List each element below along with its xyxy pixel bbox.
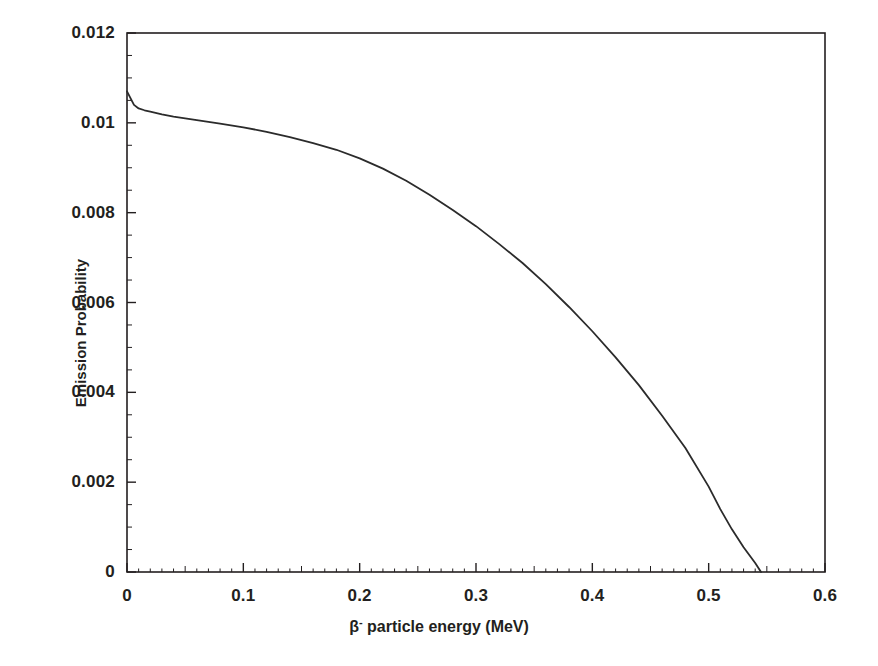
- y-tick-label: 0.002: [71, 472, 115, 492]
- x-axis-title-symbol: β: [349, 618, 359, 635]
- y-axis-title: Emission Probability: [72, 259, 89, 407]
- x-tick-label: 0.2: [348, 586, 372, 606]
- y-tick-label: 0.01: [81, 113, 115, 133]
- x-tick-label: 0.1: [231, 586, 255, 606]
- x-tick-label: 0.4: [580, 586, 604, 606]
- x-tick-label: 0.6: [813, 586, 837, 606]
- y-tick-label: 0: [105, 562, 115, 582]
- plot-frame: [127, 33, 825, 572]
- plot-border: [127, 33, 825, 572]
- y-tick-label: 0.008: [71, 203, 115, 223]
- x-tick-label: 0.3: [464, 586, 488, 606]
- x-tick-label: 0.5: [697, 586, 721, 606]
- chart-figure: 00.0020.0040.0060.0080.010.012 00.10.20.…: [0, 0, 878, 666]
- chart-plot-svg: [0, 0, 878, 666]
- y-tick-label: 0.012: [71, 23, 115, 43]
- x-axis-title-text: particle energy (MeV): [363, 618, 529, 635]
- x-axis-title: β- particle energy (MeV): [0, 616, 878, 636]
- x-tick-label: 0: [122, 586, 132, 606]
